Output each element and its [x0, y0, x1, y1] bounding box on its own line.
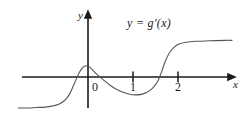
y-axis-label: y	[78, 10, 83, 21]
x-tick-label-0: 0	[92, 81, 98, 93]
x-axis-label: x	[233, 79, 238, 90]
x-tick-label-2: 2	[175, 81, 181, 93]
graph-figure: y x 0 1 2 y = g′(x)	[0, 0, 243, 130]
curve-g-prime	[18, 40, 232, 108]
x-tick-label-1: 1	[130, 81, 136, 93]
plot-canvas	[0, 0, 243, 130]
curve-equation-label: y = g′(x)	[127, 17, 171, 29]
